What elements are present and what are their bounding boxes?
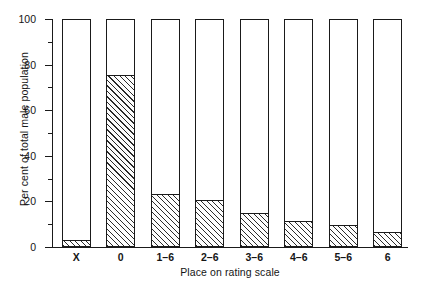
y-tick-major: 0 — [45, 247, 52, 248]
x-tick-label: 6 — [385, 251, 391, 263]
bar-fill — [152, 194, 179, 246]
y-tick-major: 60 — [45, 110, 52, 111]
bar — [240, 19, 269, 247]
y-tick-minor — [48, 133, 52, 134]
y-tick-minor — [48, 179, 52, 180]
y-tick-major: 40 — [45, 156, 52, 157]
x-tick-label: X — [73, 251, 80, 263]
y-tick-minor — [48, 87, 52, 88]
y-tick-minor — [48, 42, 52, 43]
y-tick-label: 60 — [24, 104, 36, 116]
x-axis-line — [52, 247, 408, 248]
x-tick-label: 2–6 — [201, 251, 219, 263]
x-tick-label: 4–6 — [290, 251, 308, 263]
y-tick-label: 20 — [24, 195, 36, 207]
y-axis-title: Per cent of total male population — [14, 9, 34, 249]
bar — [195, 19, 224, 247]
plot-area: 020406080100 X01–62–63–64–65–66 — [52, 19, 408, 248]
chart-figure: Per cent of total male population 020406… — [0, 0, 424, 287]
bar-fill — [241, 213, 268, 246]
bar — [62, 19, 91, 247]
y-tick-label: 80 — [24, 59, 36, 71]
y-axis-line — [52, 19, 53, 248]
y-tick-label: 0 — [30, 241, 36, 253]
bar — [151, 19, 180, 247]
x-tick-label: 0 — [118, 251, 124, 263]
x-tick-label: 3–6 — [245, 251, 263, 263]
bar-fill — [63, 240, 90, 246]
y-tick-minor — [48, 224, 52, 225]
x-axis-title: Place on rating scale — [52, 266, 408, 278]
x-tick-label: 5–6 — [334, 251, 352, 263]
bar — [373, 19, 402, 247]
x-tick-label: 1–6 — [156, 251, 174, 263]
bar-fill — [330, 225, 357, 246]
bar-fill — [107, 75, 134, 246]
bar — [329, 19, 358, 247]
bar — [106, 19, 135, 247]
y-tick-major: 20 — [45, 201, 52, 202]
bar-fill — [196, 200, 223, 246]
bar — [284, 19, 313, 247]
y-tick-major: 80 — [45, 65, 52, 66]
y-tick-major: 100 — [45, 19, 52, 20]
bar-fill — [285, 221, 312, 246]
bar-fill — [374, 232, 401, 246]
y-tick-label: 100 — [18, 13, 36, 25]
y-tick-label: 40 — [24, 150, 36, 162]
